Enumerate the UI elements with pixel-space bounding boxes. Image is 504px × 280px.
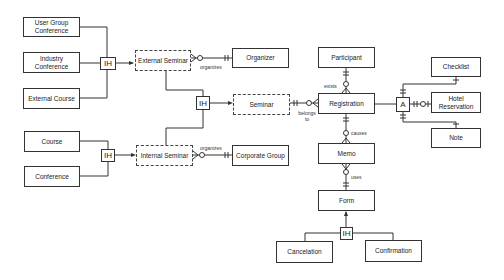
relationship-label-exists: exists — [324, 83, 337, 89]
entity-course[interactable]: Course — [24, 131, 80, 152]
relationship-label-causes: causes — [351, 130, 367, 136]
entity-label: External Seminar — [138, 57, 188, 65]
entity-label: Conference — [35, 173, 69, 181]
inheritance-connector-internal[interactable]: IH — [101, 149, 115, 162]
entity-confirmation[interactable]: Confirmation — [365, 240, 422, 262]
relationship-label-belongs-to: belongs to — [297, 110, 317, 122]
entity-registration[interactable]: Registration — [318, 93, 375, 114]
aggregation-connector[interactable]: A — [396, 97, 410, 112]
entity-external-seminar[interactable]: External Seminar — [135, 50, 191, 71]
relationship-label-organizes-external: organizes — [200, 64, 222, 70]
entity-user-group-conference[interactable]: User Group Conference — [23, 17, 80, 37]
entity-form[interactable]: Form — [318, 190, 375, 211]
entity-label: Industry Conference — [26, 55, 77, 71]
entity-checklist[interactable]: Checklist — [431, 57, 481, 77]
entity-label: Checklist — [443, 63, 469, 71]
entity-industry-conference[interactable]: Industry Conference — [23, 52, 80, 73]
entity-label: Participant — [331, 54, 362, 62]
entity-memo[interactable]: Memo — [318, 143, 375, 164]
entity-label: User Group Conference — [26, 19, 77, 35]
entity-cancelation[interactable]: Cancelation — [276, 241, 333, 263]
entity-corporate-group[interactable]: Corporate Group — [232, 145, 289, 166]
entity-label: Cancelation — [287, 248, 321, 256]
entity-label: Confirmation — [375, 247, 412, 255]
entity-label: Memo — [337, 150, 355, 158]
entity-external-course[interactable]: External Course — [23, 88, 80, 109]
entity-label: Note — [449, 134, 463, 142]
entity-label: Organizer — [246, 54, 275, 62]
entity-participant[interactable]: Participant — [318, 47, 375, 68]
entity-internal-seminar[interactable]: Internal Seminar — [136, 145, 193, 166]
entity-label: External Course — [28, 95, 75, 103]
entity-organizer[interactable]: Organizer — [232, 48, 289, 68]
entity-label: Corporate Group — [236, 152, 285, 160]
entity-label: Course — [42, 138, 63, 146]
inheritance-connector-external[interactable]: IH — [100, 57, 116, 70]
entity-label: Internal Seminar — [141, 152, 189, 160]
entity-conference[interactable]: Conference — [24, 166, 80, 187]
entity-label: Form — [339, 197, 354, 205]
entity-label: Seminar — [249, 101, 273, 109]
inheritance-connector-form[interactable]: IH — [340, 227, 353, 240]
relationship-label-uses: uses — [351, 174, 362, 180]
relationship-label-organizes-internal: organizes — [200, 145, 222, 151]
entity-label: Registration — [329, 100, 364, 108]
entity-hotel-reservation[interactable]: Hotel Reservation — [431, 92, 481, 113]
inheritance-connector-seminar[interactable]: IH — [196, 96, 210, 110]
entity-note[interactable]: Note — [431, 128, 481, 148]
entity-label: Hotel Reservation — [434, 95, 478, 111]
entity-seminar[interactable]: Seminar — [233, 94, 290, 115]
